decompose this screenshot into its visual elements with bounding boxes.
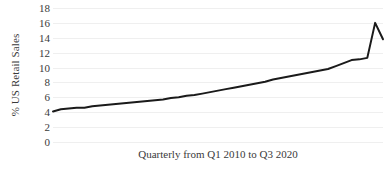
series-line [53,8,383,142]
y-tick-label: 2 [45,122,51,133]
y-tick-label: 14 [39,32,50,43]
series-polyline [53,23,383,112]
y-tick-label: 16 [39,17,50,28]
y-tick-label: 6 [45,92,51,103]
plot-area [53,8,383,142]
y-tick-label: 12 [39,47,50,58]
gridline [53,142,383,143]
y-axis-title: % US Retail Sales [9,34,21,117]
line-chart: % US Retail Sales 024681012141618 Quarte… [0,0,386,170]
y-axis-tick-labels: 024681012141618 [26,0,50,150]
y-tick-label: 10 [39,62,50,73]
x-axis-title: Quarterly from Q1 2010 to Q3 2020 [53,148,383,160]
y-tick-label: 0 [45,137,51,148]
y-tick-label: 18 [39,3,50,14]
y-tick-label: 4 [45,107,51,118]
y-tick-label: 8 [45,77,51,88]
